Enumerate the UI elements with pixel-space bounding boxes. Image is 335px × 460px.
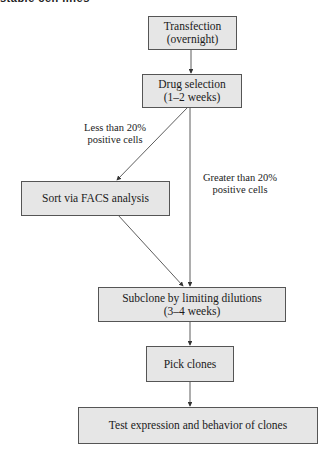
edge-label-greater: Greater than 20% positive cells [190, 172, 290, 196]
node-transfection: Transfection (overnight) [148, 16, 237, 50]
node-test: Test expression and behavior of clones [78, 407, 318, 444]
edge-label-less: Less than 20% positive cells [70, 122, 160, 146]
node-text: Transfection [164, 20, 222, 33]
node-subclone: Subclone by limiting dilutions (3–4 week… [98, 287, 286, 322]
node-text: Pick clones [164, 358, 217, 371]
node-subtext: (1–2 weeks) [164, 91, 221, 104]
flow-arrows [0, 0, 335, 460]
node-subtext: (overnight) [167, 33, 219, 46]
node-text: Sort via FACS analysis [42, 192, 149, 205]
node-pick-clones: Pick clones [146, 346, 234, 382]
node-facs: Sort via FACS analysis [21, 181, 170, 216]
node-text: Test expression and behavior of clones [109, 419, 287, 432]
node-subtext: (3–4 weeks) [164, 305, 221, 318]
node-drug-selection: Drug selection (1–2 weeks) [142, 74, 242, 108]
node-text: Subclone by limiting dilutions [122, 292, 262, 305]
node-text: Drug selection [158, 78, 225, 91]
